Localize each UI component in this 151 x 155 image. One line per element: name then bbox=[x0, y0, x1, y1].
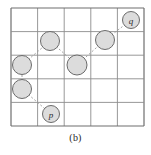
figure-caption: (b) bbox=[0, 132, 151, 143]
figure-container: pq (b) bbox=[0, 0, 151, 155]
path-node bbox=[13, 80, 32, 99]
path-node bbox=[41, 32, 60, 51]
path-node-label-q: q bbox=[129, 16, 134, 26]
path-nodes: pq bbox=[13, 12, 140, 123]
path-node bbox=[67, 55, 87, 75]
path-node bbox=[96, 31, 115, 50]
path-node bbox=[13, 56, 32, 75]
path-node-label-p: p bbox=[48, 110, 54, 120]
